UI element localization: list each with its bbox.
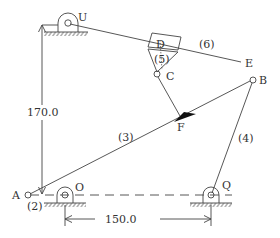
link-3-label: (3): [118, 131, 134, 144]
link-5-label: (5): [154, 53, 170, 66]
link-6-label: (6): [199, 38, 215, 51]
point-e-label: E: [245, 57, 253, 70]
point-c-label: C: [166, 70, 174, 83]
point-d-label: D: [156, 38, 165, 51]
mechanism-diagram: 170.0 D (5) C (6) E F (3) B (4) A (2) O: [0, 0, 280, 238]
point-u-label: U: [78, 11, 87, 24]
point-b-label: B: [259, 74, 267, 87]
dim-150-label: 150.0: [105, 213, 137, 226]
point-o-label: O: [75, 181, 84, 194]
dimension-horizontal: [65, 205, 211, 226]
link-2-label: (2): [27, 200, 43, 213]
point-a-label: A: [11, 189, 21, 202]
point-f-label: F: [177, 121, 185, 134]
point-q-label: Q: [222, 179, 231, 192]
joint-b: [250, 77, 256, 83]
dim-170-label: 170.0: [27, 106, 59, 119]
link-3: [30, 81, 250, 194]
link-4-label: (4): [238, 132, 254, 145]
